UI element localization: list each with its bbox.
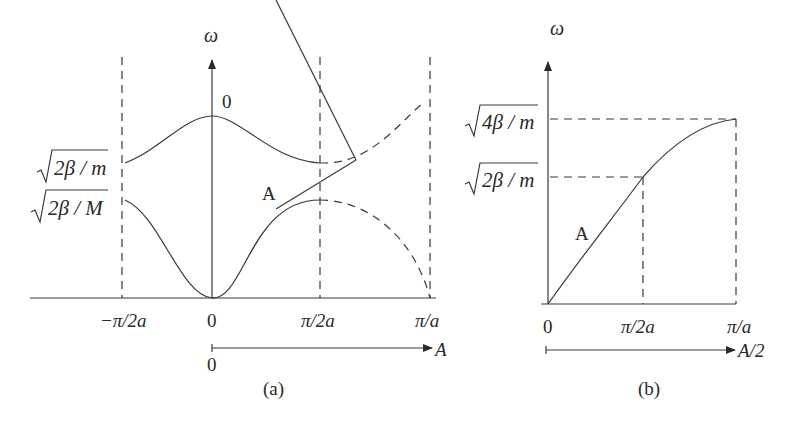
b-branch-label: A — [575, 223, 589, 244]
acoustic-branch-extended — [320, 200, 430, 298]
b-acoustic-curve — [548, 119, 736, 304]
svg-text:2β / m: 2β / m — [54, 156, 106, 180]
svg-text:2β / m: 2β / m — [482, 168, 534, 192]
dispersion-diagram: ω 0 A 2β / m 2β / M −π/2a 0 π/2a — [0, 0, 792, 421]
panel-b: ω A 4β / m 2β / m 0 π/2a π/a A/2 (b) — [465, 17, 765, 400]
lower-axis-label: A — [433, 339, 447, 360]
b-tick-pi-a: π/a — [727, 316, 751, 337]
b-tick-pi-2a: π/2a — [621, 316, 655, 337]
acoustic-branch-label: A — [262, 183, 276, 204]
panel-a: ω 0 A 2β / m 2β / M −π/2a 0 π/2a — [30, 0, 447, 400]
b-lower-axis-label: A/2 — [736, 340, 765, 361]
tick-zero: 0 — [207, 310, 217, 331]
caption-b: (b) — [638, 378, 660, 400]
tick-pi-a: π/a — [415, 310, 439, 331]
optical-branch-extended — [320, 103, 423, 163]
optical-branch — [125, 116, 320, 163]
tick-neg-pi-2a: −π/2a — [100, 310, 147, 331]
omega-axis-label: ω — [204, 24, 218, 46]
y-label-sqrt-2beta-m: 2β / m — [37, 150, 108, 182]
tick-pi-2a: π/2a — [301, 310, 335, 331]
lower-axis-origin: 0 — [207, 354, 217, 375]
caption-a: (a) — [263, 378, 284, 400]
b-y-label-sqrt-4beta-m: 4β / m — [465, 105, 538, 136]
b-y-label-sqrt-2beta-m: 2β / m — [465, 163, 538, 194]
y-label-sqrt-2beta-M: 2β / M — [31, 190, 108, 222]
svg-text:4β / m: 4β / m — [482, 110, 534, 134]
optical-branch-label: 0 — [222, 91, 232, 112]
b-omega-axis-label: ω — [550, 17, 564, 39]
svg-text:2β / M: 2β / M — [48, 196, 104, 220]
acoustic-branch — [125, 200, 320, 298]
linear-dispersion-line — [276, 0, 356, 160]
b-tick-zero: 0 — [543, 316, 553, 337]
